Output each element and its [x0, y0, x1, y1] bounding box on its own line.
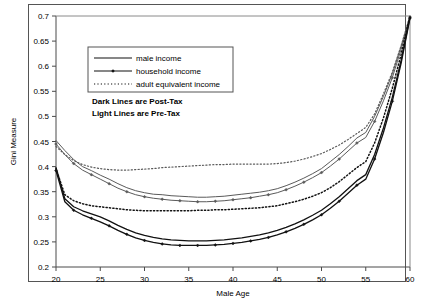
series-marker-4: [196, 244, 199, 247]
series-marker-4: [161, 242, 164, 245]
line-chart: 0.20.250.30.350.40.450.50.550.60.650.720…: [0, 0, 434, 308]
series-marker-1: [143, 195, 146, 198]
legend-label-1: household income: [136, 67, 201, 76]
x-tick-label: 40: [229, 275, 238, 284]
series-marker-4: [178, 244, 181, 247]
legend-label-0: male income: [136, 54, 182, 63]
series-marker-4: [214, 243, 217, 246]
y-tick-label: 0.4: [38, 163, 50, 172]
figure-container: 0.20.250.30.350.40.450.50.550.60.650.720…: [0, 0, 434, 308]
y-tick-label: 0.45: [33, 138, 49, 147]
x-tick-label: 20: [52, 275, 61, 284]
y-axis-title: Gini Measure: [9, 117, 18, 165]
chart-annotation-1: Light Lines are Pre-Tax: [92, 109, 180, 118]
x-tick-label: 50: [317, 275, 326, 284]
y-tick-label: 0.2: [38, 263, 50, 272]
x-axis-title: Male Age: [216, 289, 250, 298]
series-marker-1: [161, 198, 164, 201]
series-marker-1: [214, 200, 217, 203]
series-marker-1: [125, 190, 128, 193]
series-marker-4: [249, 239, 252, 242]
chart-annotation-0: Dark Lines are Post-Tax: [92, 97, 183, 106]
y-tick-label: 0.6: [38, 62, 50, 71]
legend-label-2: adult equivalent income: [136, 80, 221, 89]
y-tick-label: 0.7: [38, 12, 50, 21]
x-tick-label: 60: [406, 275, 415, 284]
x-tick-label: 25: [96, 275, 105, 284]
series-marker-4: [267, 236, 270, 239]
series-marker-1: [249, 196, 252, 199]
y-tick-label: 0.35: [33, 188, 49, 197]
y-tick-label: 0.5: [38, 112, 50, 121]
x-tick-label: 55: [361, 275, 370, 284]
series-marker-4: [143, 239, 146, 242]
series-marker-1: [267, 193, 270, 196]
series-marker-4: [232, 242, 235, 245]
y-tick-label: 0.55: [33, 87, 49, 96]
series-line-2: [56, 16, 410, 170]
x-tick-label: 45: [273, 275, 282, 284]
series-marker-1: [232, 198, 235, 201]
series-marker-1: [178, 199, 181, 202]
y-tick-label: 0.65: [33, 37, 49, 46]
y-tick-label: 0.3: [38, 213, 50, 222]
y-tick-label: 0.25: [33, 238, 49, 247]
x-tick-label: 35: [184, 275, 193, 284]
series-marker-1: [196, 200, 199, 203]
series-marker-1: [285, 188, 288, 191]
series-line-0: [56, 16, 410, 197]
x-tick-label: 30: [140, 275, 149, 284]
